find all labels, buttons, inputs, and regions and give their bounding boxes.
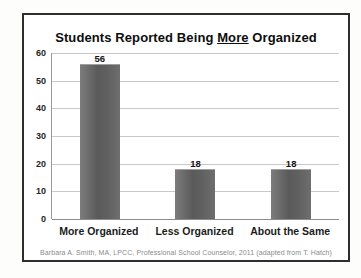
bar-value-label: 18	[286, 159, 297, 169]
bar-slot: 56	[52, 53, 148, 219]
bar-value-label: 18	[190, 159, 201, 169]
title-underlined-word: More	[217, 30, 248, 45]
title-text: Organized	[249, 30, 317, 45]
y-tick-label: 0	[24, 214, 46, 224]
plot-area: 561818	[51, 53, 339, 219]
bar-more-organized	[80, 64, 120, 219]
chart-title: Students Reported Being More Organized	[24, 30, 348, 45]
y-tick-label: 40	[24, 103, 46, 113]
chart-card: Students Reported Being More Organized 0…	[22, 13, 350, 262]
x-axis-category-label: Less Organized	[147, 225, 243, 237]
x-axis-labels: More OrganizedLess OrganizedAbout the Sa…	[51, 225, 338, 237]
y-tick-label: 10	[24, 186, 46, 196]
y-tick-label: 20	[24, 159, 46, 169]
source-caption: Barbara A. Smith, MA, LPCC, Professional…	[24, 249, 348, 256]
y-tick-label: 30	[24, 131, 46, 141]
bar-about-the-same	[271, 169, 311, 219]
y-axis: 0102030405060	[24, 53, 46, 219]
bars-container: 561818	[52, 53, 339, 219]
x-axis-category-label: More Organized	[51, 225, 147, 237]
x-axis-category-label: About the Same	[242, 225, 338, 237]
page: { "chart_data": { "type": "bar", "title_…	[0, 0, 361, 278]
y-tick-label: 60	[24, 48, 46, 58]
x-axis-line	[52, 219, 339, 220]
bar-less-organized	[175, 169, 215, 219]
bar-value-label: 56	[95, 54, 106, 64]
title-text: Students Reported Being	[55, 30, 217, 45]
y-tick-label: 50	[24, 76, 46, 86]
bar-slot: 18	[243, 53, 339, 219]
bar-slot: 18	[148, 53, 244, 219]
